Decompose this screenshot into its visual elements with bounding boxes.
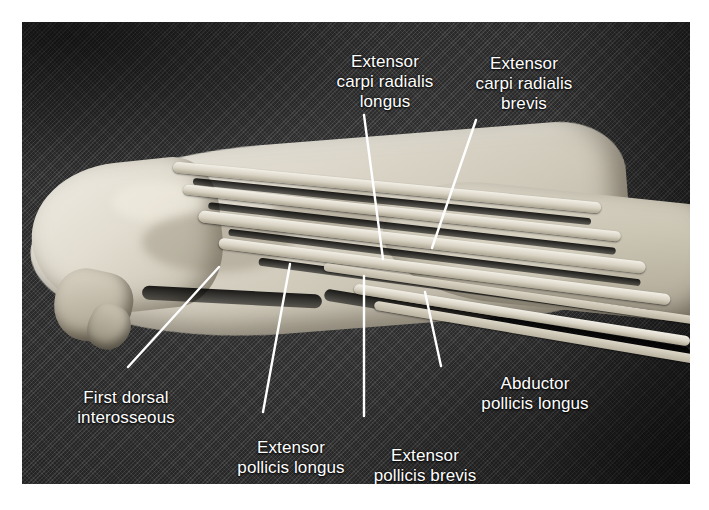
anatomy-figure: Extensor carpi radialis longus Extensor …	[0, 0, 709, 510]
leader-line-fdi	[128, 267, 219, 367]
leader-line-epl	[263, 264, 290, 412]
label-extensor-carpi-radialis-longus: Extensor carpi radialis longus	[310, 52, 460, 112]
page-bleed-through-text	[28, 492, 668, 504]
label-abductor-pollicis-longus: Abductor pollicis longus	[450, 374, 620, 414]
label-extensor-carpi-radialis-brevis: Extensor carpi radialis brevis	[454, 54, 594, 114]
leader-line-ecrl	[364, 115, 383, 259]
label-first-dorsal-interosseous: First dorsal interosseous	[46, 388, 206, 428]
leader-line-apl	[425, 292, 441, 366]
leader-line-ecrb	[432, 120, 476, 248]
label-extensor-pollicis-brevis: Extensor pollicis brevis	[350, 446, 500, 484]
specimen-photograph: Extensor carpi radialis longus Extensor …	[22, 22, 690, 484]
